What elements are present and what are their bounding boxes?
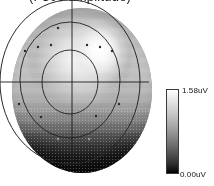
scalp-map: [12, 8, 152, 173]
colorbar-scale: [166, 89, 179, 174]
colorbar-min-label: 0.00uV: [180, 170, 206, 179]
colorbar-max-label: 1.58uV: [182, 86, 208, 95]
field-dither-texture: [12, 107, 152, 173]
eeg-topography-figure: (P300 amplitude): [0, 0, 214, 186]
figure-title: (P300 amplitude): [0, 0, 160, 4]
scalp-map-field: [12, 8, 152, 173]
